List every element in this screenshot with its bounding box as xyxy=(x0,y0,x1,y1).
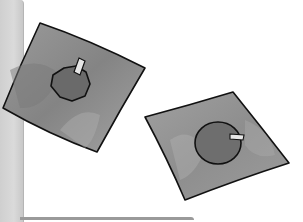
illustration xyxy=(0,0,303,222)
right-square xyxy=(145,92,289,200)
left-square xyxy=(3,23,145,152)
